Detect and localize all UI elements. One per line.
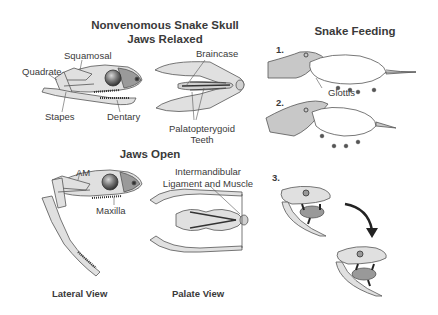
skull-title-line1: Nonvenomous Snake Skull: [80, 19, 250, 31]
label-intermandibular: Intermandibular: [160, 166, 256, 177]
label-dentary: Dentary: [107, 111, 140, 122]
caption-palate-view: Palate View: [172, 288, 224, 299]
feeding-step-3a-illustration: [281, 186, 330, 236]
feeding-step-2-illustration: [266, 101, 396, 148]
feeding-title: Snake Feeding: [300, 25, 410, 37]
label-quadrate: Quadrate: [22, 66, 62, 77]
label-stapes: Stapes: [45, 111, 75, 122]
jaws-open-title: Jaws Open: [110, 148, 190, 160]
curved-arrow-icon: [345, 204, 378, 238]
step-2-number: 2.: [276, 97, 284, 108]
skull-title-line2: Jaws Relaxed: [80, 33, 250, 45]
label-squamosal: Squamosal: [64, 50, 112, 61]
feeding-step-3b-illustration: [336, 247, 386, 296]
skull-palate-open: [150, 189, 248, 252]
step-3-number: 3.: [272, 172, 280, 183]
skull-lateral-open: [42, 170, 142, 276]
label-braincase: Braincase: [196, 48, 238, 59]
label-palatopterygoid-teeth: Teeth: [166, 134, 238, 145]
step-1-number: 1.: [276, 44, 284, 55]
label-maxilla: Maxilla: [96, 205, 126, 216]
label-ligament-and-muscle: Ligament and Muscle: [158, 178, 258, 189]
label-am: AM: [76, 167, 90, 178]
caption-lateral-view: Lateral View: [52, 288, 107, 299]
skull-palate-relaxed: [155, 62, 244, 112]
label-palatopterygoid: Palatopterygoid: [166, 123, 238, 134]
label-glottis: Glottis: [328, 87, 355, 98]
